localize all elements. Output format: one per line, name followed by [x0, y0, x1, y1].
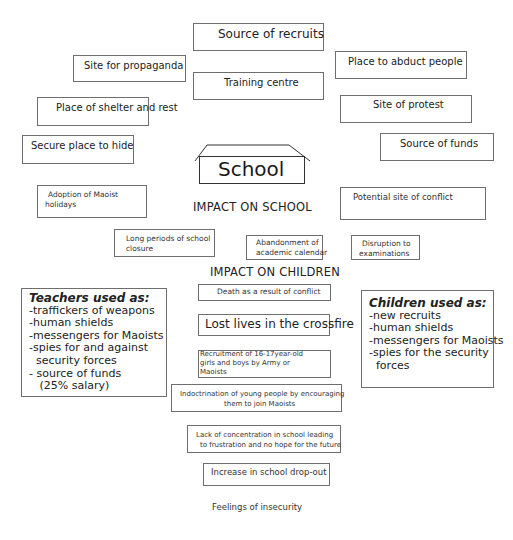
box-secure-place-to-hide: Secure place to hide	[22, 135, 134, 164]
box-abandonment-calendar: Abandonment of academic calendar	[246, 235, 323, 260]
label-indoctrination-line2: them to join Maoists	[224, 399, 295, 409]
label-site-for-propaganda: Site for propaganda	[84, 60, 183, 71]
school-box: School	[199, 156, 305, 184]
teachers-title: Teachers used as:	[29, 292, 164, 305]
box-site-for-propaganda: Site for propaganda	[73, 55, 186, 82]
label-abandonment-line2: academic calendar	[256, 248, 327, 258]
label-lost-lives: Lost lives in the crossfire	[205, 317, 354, 331]
box-place-to-abduct-people: Place to abduct people	[335, 51, 467, 79]
label-place-to-abduct-people: Place to abduct people	[348, 56, 463, 67]
box-training-centre: Training centre	[193, 72, 324, 100]
label-site-of-protest: Site of protest	[373, 99, 444, 110]
box-recruitment-16-17: Recruitment of 16-17year-old girls and b…	[198, 350, 331, 378]
box-disruption-examinations: Disruption to examinations	[351, 235, 420, 260]
label-adoption-line2: holidays	[45, 200, 76, 210]
children-box: Children used as: -new recruits -human s…	[361, 290, 494, 388]
children-list: Children used as: -new recruits -human s…	[369, 297, 504, 373]
school-label: School	[218, 157, 284, 181]
label-recruitment-line2: girls and boys by Army or	[200, 359, 290, 368]
impact-on-school-heading: IMPACT ON SCHOOL	[193, 200, 312, 214]
teachers-list: Teachers used as: -traffickers of weapon…	[29, 292, 164, 393]
box-lost-lives-crossfire: Lost lives in the crossfire	[198, 314, 330, 336]
teachers-box: Teachers used as: -traffickers of weapon…	[21, 288, 167, 397]
label-feelings-of-insecurity: Feelings of insecurity	[212, 502, 302, 512]
label-disruption-line2: examinations	[359, 249, 410, 259]
label-secure-place-to-hide: Secure place to hide	[31, 140, 133, 151]
label-source-of-recruits: Source of recruits	[218, 27, 324, 41]
children-title: Children used as:	[369, 297, 504, 310]
teachers-item: (25% salary)	[29, 380, 164, 393]
box-long-periods-closure: Long periods of school closure	[114, 229, 215, 257]
box-site-of-protest: Site of protest	[340, 95, 472, 123]
label-lack-line1: Lack of concentration in school leading	[196, 430, 333, 440]
box-indoctrination: Indoctrination of young people by encour…	[171, 384, 342, 412]
label-recruitment-line1: Recruitment of 16-17year-old	[200, 350, 303, 359]
box-source-of-recruits: Source of recruits	[193, 23, 324, 51]
label-indoctrination-line1: Indoctrination of young people by encour…	[180, 389, 344, 399]
label-adoption-line1: Adoption of Maoist	[48, 190, 118, 200]
children-item: -human shields	[369, 322, 504, 335]
label-long-periods-line2: closure	[126, 244, 153, 254]
box-source-of-funds: Source of funds	[380, 133, 494, 161]
label-increase-drop-out: Increase in school drop-out	[211, 467, 327, 477]
label-place-of-shelter: Place of shelter and rest	[56, 102, 178, 113]
impact-on-children-heading: IMPACT ON CHILDREN	[210, 265, 340, 279]
label-recruitment-line3: Maoists	[200, 368, 227, 377]
box-lack-of-concentration: Lack of concentration in school leading …	[187, 425, 341, 453]
box-increase-drop-out: Increase in school drop-out	[203, 463, 330, 486]
teachers-item: security forces	[29, 355, 164, 368]
label-long-periods-line1: Long periods of school	[126, 234, 210, 244]
teachers-item: -human shields	[29, 317, 164, 330]
label-lack-line2: to frustration and no hope for the futur…	[200, 440, 341, 450]
box-place-of-shelter: Place of shelter and rest	[37, 97, 149, 126]
label-disruption-line1: Disruption to	[362, 239, 411, 249]
box-adoption-maoist-holidays: Adoption of Maoist holidays	[37, 185, 147, 218]
label-abandonment-line1: Abandonment of	[256, 238, 319, 248]
label-training-centre: Training centre	[224, 77, 299, 88]
label-death: Death as a result of conflict	[217, 287, 320, 297]
label-potential-site-of-conflict: Potential site of conflict	[353, 192, 453, 202]
box-potential-site-of-conflict: Potential site of conflict	[340, 187, 486, 220]
label-source-of-funds: Source of funds	[400, 138, 478, 149]
box-death-result-conflict: Death as a result of conflict	[198, 284, 331, 301]
children-item: forces	[369, 360, 504, 373]
